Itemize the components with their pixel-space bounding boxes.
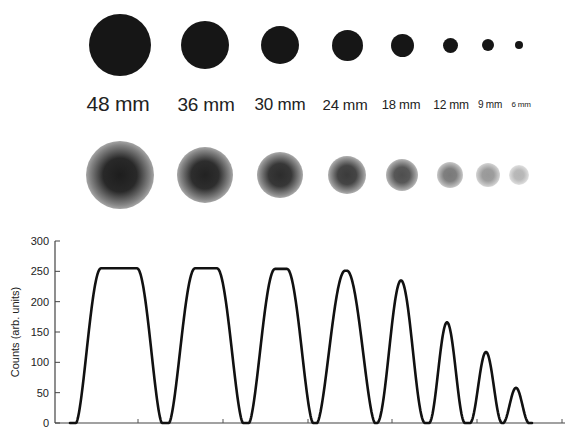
y-tick-label: 200 (31, 296, 49, 308)
y-tick-label: 0 (43, 417, 49, 429)
y-tick-label: 50 (37, 387, 49, 399)
y-tick-label: 300 (31, 235, 49, 247)
profile-curve (70, 268, 532, 423)
y-tick-label: 150 (31, 326, 49, 338)
counts-profile-chart: 050100150200250300 Counts (arb. units) (0, 0, 577, 434)
figure: 48 mm36 mm30 mm24 mm18 mm12 mm9 mm6 mm 0… (0, 0, 577, 434)
y-tick-label: 100 (31, 356, 49, 368)
y-axis-label: Counts (arb. units) (9, 287, 21, 377)
y-tick-label: 250 (31, 265, 49, 277)
